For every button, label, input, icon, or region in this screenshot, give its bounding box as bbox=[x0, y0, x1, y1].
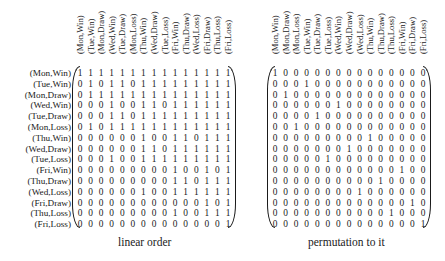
matrix-cell: 0 bbox=[281, 100, 291, 110]
matrix-cell: 0 bbox=[312, 219, 322, 229]
matrix-cell: 0 bbox=[117, 165, 127, 175]
matrix-cell: 0 bbox=[281, 154, 291, 164]
matrix-cell: 0 bbox=[149, 133, 159, 143]
matrix-cell: 0 bbox=[170, 198, 180, 208]
matrix-cell: 0 bbox=[333, 154, 343, 164]
left-matrix-close-paren bbox=[228, 66, 236, 228]
matrix-cell: 0 bbox=[344, 219, 354, 229]
matrix-cell: 1 bbox=[191, 122, 201, 132]
matrix-cell: 1 bbox=[138, 68, 148, 78]
matrix-cell: 0 bbox=[270, 79, 280, 89]
row-label: (Thu,Draw) bbox=[27, 176, 71, 186]
matrix-cell: 0 bbox=[75, 133, 85, 143]
column-label: (Fri,Draw) bbox=[407, 4, 417, 64]
matrix-cell: 0 bbox=[75, 187, 85, 197]
matrix-cell: 0 bbox=[160, 165, 170, 175]
matrix-cell: 0 bbox=[291, 208, 301, 218]
matrix-cell: 1 bbox=[128, 68, 138, 78]
matrix-cell: 0 bbox=[344, 165, 354, 175]
matrix-cell: 0 bbox=[291, 165, 301, 175]
matrix-cell: 0 bbox=[397, 144, 407, 154]
matrix-cell: 1 bbox=[138, 122, 148, 132]
matrix-cell: 0 bbox=[149, 219, 159, 229]
matrix-cell: 1 bbox=[202, 165, 212, 175]
matrix-cell: 1 bbox=[202, 154, 212, 164]
matrix-cell: 0 bbox=[96, 198, 106, 208]
matrix-cell: 0 bbox=[291, 100, 301, 110]
matrix-cell: 1 bbox=[160, 68, 170, 78]
matrix-cell: 0 bbox=[149, 187, 159, 197]
column-label-text: (Mon,Draw) bbox=[281, 11, 291, 54]
matrix-cell: 1 bbox=[333, 100, 343, 110]
matrix-cell: 1 bbox=[191, 187, 201, 197]
matrix-cell: 0 bbox=[281, 219, 291, 229]
column-label: (Wed,Loss) bbox=[191, 4, 201, 64]
matrix-cell: 0 bbox=[386, 187, 396, 197]
matrix-cell: 0 bbox=[333, 133, 343, 143]
matrix-cell: 0 bbox=[86, 133, 96, 143]
matrix-cell: 1 bbox=[181, 79, 191, 89]
matrix-cell: 1 bbox=[281, 90, 291, 100]
matrix-cell: 0 bbox=[386, 133, 396, 143]
row-label: (Fri,Win) bbox=[36, 165, 71, 175]
matrix-cell: 0 bbox=[86, 144, 96, 154]
matrix-cell: 1 bbox=[191, 144, 201, 154]
matrix-cell: 0 bbox=[323, 219, 333, 229]
matrix-cell: 0 bbox=[270, 187, 280, 197]
matrix-cell: 0 bbox=[107, 187, 117, 197]
matrix-cell: 0 bbox=[270, 111, 280, 121]
matrix-cell: 1 bbox=[149, 90, 159, 100]
matrix-cell: 1 bbox=[181, 111, 191, 121]
matrix-cell: 0 bbox=[386, 165, 396, 175]
matrix-cell: 0 bbox=[96, 133, 106, 143]
matrix-cell: 0 bbox=[128, 154, 138, 164]
matrix-cell: 0 bbox=[128, 219, 138, 229]
matrix-cell: 0 bbox=[376, 144, 386, 154]
matrix-cell: 0 bbox=[407, 79, 417, 89]
column-label: (Fri,Loss) bbox=[418, 4, 428, 64]
column-label-text: (Thu,Win) bbox=[365, 18, 375, 54]
matrix-cell: 0 bbox=[365, 122, 375, 132]
matrix-cell: 0 bbox=[376, 208, 386, 218]
matrix-cell: 1 bbox=[191, 100, 201, 110]
matrix-cell: 0 bbox=[270, 90, 280, 100]
matrix-cell: 0 bbox=[355, 144, 365, 154]
matrix-cell: 0 bbox=[386, 198, 396, 208]
matrix-cell: 0 bbox=[96, 154, 106, 164]
matrix-cell: 1 bbox=[202, 90, 212, 100]
column-label: (Thu,Draw) bbox=[181, 4, 191, 64]
matrix-cell: 1 bbox=[149, 111, 159, 121]
matrix-cell: 0 bbox=[323, 90, 333, 100]
column-label-text: (Fri,Draw) bbox=[202, 17, 212, 54]
matrix-cell: 0 bbox=[138, 219, 148, 229]
matrix-cell: 0 bbox=[407, 165, 417, 175]
matrix-cell: 0 bbox=[344, 68, 354, 78]
matrix-cell: 0 bbox=[96, 219, 106, 229]
matrix-cell: 0 bbox=[107, 208, 117, 218]
matrix-cell: 1 bbox=[107, 68, 117, 78]
matrix-cell: 1 bbox=[212, 208, 222, 218]
permutation-panel: (Mon,Win)(Mon,Draw)(Mon,Loss)(Tue,Win)(T… bbox=[240, 0, 445, 261]
matrix-cell: 0 bbox=[191, 176, 201, 186]
matrix-cell: 0 bbox=[386, 219, 396, 229]
matrix-cell: 1 bbox=[202, 187, 212, 197]
matrix-cell: 1 bbox=[117, 79, 127, 89]
matrix-cell: 0 bbox=[291, 219, 301, 229]
matrix-cell: 0 bbox=[128, 100, 138, 110]
matrix-cell: 0 bbox=[344, 187, 354, 197]
column-label: (Tue,Loss) bbox=[323, 4, 333, 64]
row-label: (Fri,Loss) bbox=[35, 219, 72, 229]
matrix-cell: 1 bbox=[202, 208, 212, 218]
matrix-cell: 0 bbox=[117, 133, 127, 143]
matrix-cell: 0 bbox=[365, 176, 375, 186]
matrix-cell: 0 bbox=[333, 90, 343, 100]
matrix-cell: 1 bbox=[212, 122, 222, 132]
matrix-cell: 1 bbox=[170, 133, 180, 143]
matrix-cell: 0 bbox=[312, 176, 322, 186]
matrix-cell: 1 bbox=[75, 68, 85, 78]
matrix-cell: 0 bbox=[323, 68, 333, 78]
matrix-cell: 0 bbox=[75, 165, 85, 175]
matrix-cell: 0 bbox=[86, 111, 96, 121]
matrix-cell: 0 bbox=[138, 198, 148, 208]
matrix-cell: 1 bbox=[212, 187, 222, 197]
